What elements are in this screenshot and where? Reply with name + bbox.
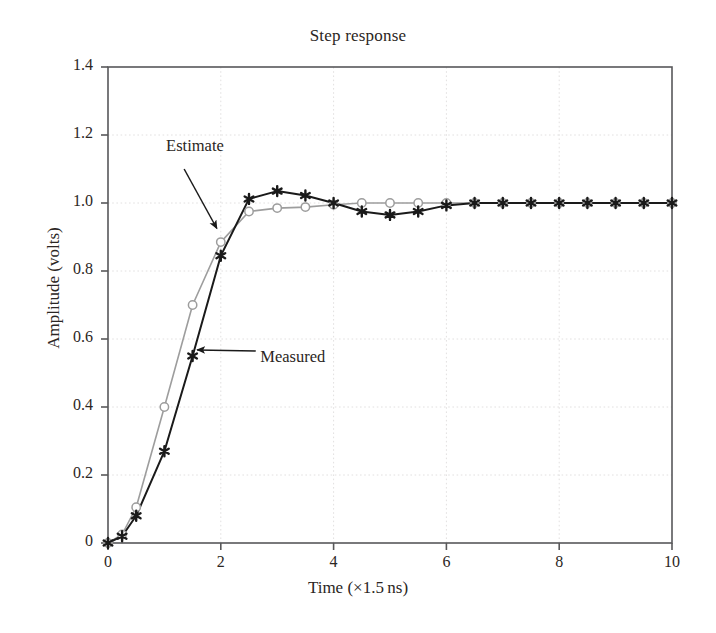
marker-estimate <box>188 301 196 309</box>
y-tick-label: 1.4 <box>33 56 93 74</box>
data-series-layer <box>104 186 677 548</box>
y-tick-label: 0.6 <box>33 328 93 346</box>
marker-measured <box>188 351 197 361</box>
marker-measured <box>160 446 169 456</box>
chart-canvas <box>0 0 716 633</box>
y-axis-label: Amplitude (volts) <box>44 108 64 468</box>
annotation-label-measured: Measured <box>260 347 325 367</box>
y-tick-label: 0.8 <box>33 260 93 278</box>
step-response-figure: Step response Time (×1.5 ns) Amplitude (… <box>0 0 716 633</box>
y-tick-label: 1.0 <box>33 192 93 210</box>
marker-measured <box>216 251 225 261</box>
x-tick-label: 2 <box>201 553 241 571</box>
annotation-label-estimate: Estimate <box>166 136 224 156</box>
x-tick-label: 6 <box>426 553 466 571</box>
x-tick-label: 4 <box>314 553 354 571</box>
marker-estimate <box>245 207 253 215</box>
y-tick-label: 1.2 <box>33 124 93 142</box>
y-tick-label: 0.2 <box>33 464 93 482</box>
x-tick-label: 0 <box>88 553 128 571</box>
x-axis-label: Time (×1.5 ns) <box>0 578 716 598</box>
marker-estimate <box>386 199 394 207</box>
marker-estimate <box>217 238 225 246</box>
marker-estimate <box>301 203 309 211</box>
series-line-measured <box>108 191 672 543</box>
series-line-estimate <box>108 203 672 543</box>
marker-estimate <box>273 204 281 212</box>
chart-title: Step response <box>0 26 716 46</box>
x-tick-label: 10 <box>652 553 692 571</box>
y-tick-label: 0.4 <box>33 396 93 414</box>
marker-estimate <box>160 403 168 411</box>
annotation-arrow-estimate <box>184 169 217 229</box>
annotation-arrow-measured <box>197 350 256 351</box>
y-tick-label: 0 <box>33 532 93 550</box>
x-tick-label: 8 <box>539 553 579 571</box>
